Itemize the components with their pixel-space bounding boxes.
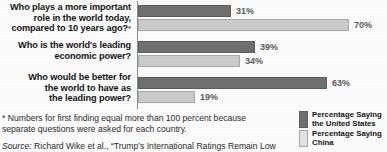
bar-group-2-china [138, 55, 240, 67]
bar-value-group-1-china: 70% [354, 19, 372, 31]
legend-item-china: Percentage Saying China [299, 130, 387, 147]
bar-group-3-us [138, 77, 327, 89]
question-label-1-line-3: compared to 10 years ago? [12, 23, 128, 33]
source-label: Source: [2, 141, 32, 151]
chart-footnote: * Numbers for first finding equal more t… [2, 113, 274, 136]
bar-value-group-3-china: 19% [200, 91, 218, 103]
bar-group-1-china [138, 19, 349, 31]
question-label-2-line-1: Who is the world's leading [18, 40, 131, 50]
chart-legend: Percentage Saying the United States Perc… [299, 111, 387, 149]
legend-item-united-states: Percentage Saying the United States [299, 111, 387, 128]
question-label-2: Who is the world's leading economic powe… [0, 40, 131, 61]
bar-group-1-us [138, 5, 231, 17]
chart-figure: Who plays a more important role in the w… [0, 0, 387, 152]
legend-label-china: Percentage Saying China [312, 130, 382, 147]
question-label-2-line-2: economic power? [54, 51, 131, 61]
legend-label-china-line-2: China [312, 138, 334, 147]
legend-swatch-united-states [299, 111, 308, 128]
question-label-1: Who plays a more important role in the w… [0, 2, 131, 35]
legend-label-united-states: Percentage Saying the United States [312, 111, 382, 128]
bar-value-group-3-us: 63% [332, 77, 350, 89]
bar-value-group-2-china: 34% [245, 55, 263, 67]
chart-group-3: Who would be better for the world to hav… [0, 72, 387, 108]
question-label-3-line-2: the world to have as [45, 83, 131, 93]
bar-group-3-china [138, 91, 195, 103]
question-label-3: Who would be better for the world to hav… [0, 72, 131, 104]
chart-group-1: Who plays a more important role in the w… [0, 2, 387, 36]
bar-value-group-2-us: 39% [260, 41, 278, 53]
legend-swatch-china [299, 130, 308, 147]
question-label-3-line-1: Who would be better for [28, 72, 131, 82]
bar-group-2-us [138, 41, 255, 53]
legend-label-united-states-line-2: the United States [312, 119, 376, 128]
footnote-marker-1: * [128, 24, 131, 33]
source-text: Richard Wike et al., “Trump’s Internatio… [32, 141, 276, 151]
question-label-3-line-3: the leading power? [49, 93, 131, 103]
bar-value-group-1-us: 31% [236, 5, 254, 17]
question-label-1-line-1: Who plays a more important [10, 2, 131, 12]
chart-group-2: Who is the world's leading economic powe… [0, 40, 387, 72]
question-label-1-line-2: role in the world today, [34, 13, 131, 23]
bar-chart: Who plays a more important role in the w… [0, 0, 387, 110]
chart-source: Source: Richard Wike et al., “Trump’s In… [2, 141, 302, 152]
